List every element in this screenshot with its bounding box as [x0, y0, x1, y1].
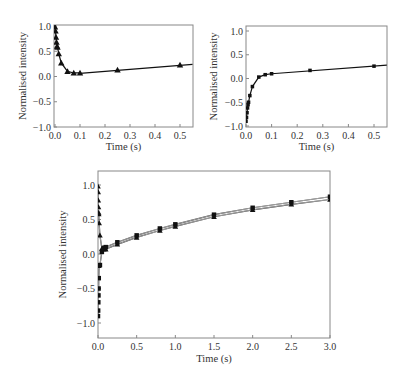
plot-frame: [54, 25, 193, 127]
y-tick-label: 1.0: [231, 26, 244, 37]
x-tick-label: 0.0: [240, 130, 253, 141]
y-tick-label: 0.5: [231, 49, 244, 60]
x-tick-label: 0.2: [291, 130, 304, 141]
plot-area: [52, 24, 193, 76]
y-tick-label: −1.0: [77, 318, 95, 329]
plot-frame: [246, 26, 387, 127]
square-marker: [96, 286, 100, 290]
fit-line: [80, 64, 193, 73]
x-tick-label: 0.0: [49, 130, 62, 141]
triangle-marker: [95, 189, 101, 194]
fit-line: [272, 65, 387, 74]
square-marker: [134, 233, 138, 237]
x-tick-label: 0.5: [174, 130, 187, 141]
chart-top-left: 1.00.50.0−0.5−1.00.00.10.20.30.40.5Time …: [17, 21, 193, 154]
triangle-marker: [58, 60, 64, 66]
x-tick-label: 3.0: [324, 341, 337, 352]
square-marker: [103, 245, 107, 249]
triangle-marker: [96, 204, 102, 209]
x-axis-label: Time (s): [106, 141, 142, 153]
series-line-triangles: [55, 27, 80, 73]
square-marker: [173, 222, 177, 226]
x-axis-label: Time (s): [196, 353, 232, 365]
y-axis-label: Normalised intensity: [57, 210, 68, 299]
y-tick-label: 0.5: [83, 214, 96, 225]
series-line-squares: [246, 74, 272, 122]
square-marker: [289, 200, 293, 204]
square-marker: [250, 206, 254, 210]
square-marker: [257, 75, 261, 79]
x-tick-label: 0.4: [342, 130, 355, 141]
x-tick-label: 0.2: [99, 130, 112, 141]
triangle-marker: [96, 220, 102, 225]
y-tick-label: 0.0: [83, 249, 96, 260]
square-marker: [98, 263, 102, 267]
triangle-marker: [52, 28, 58, 34]
x-tick-label: 0.3: [317, 130, 330, 141]
square-marker: [96, 314, 100, 318]
square-marker: [97, 276, 101, 280]
square-marker: [328, 194, 332, 198]
y-tick-label: 1.0: [39, 21, 52, 32]
triangle-marker: [96, 197, 102, 202]
x-tick-label: 0.5: [368, 130, 381, 141]
square-marker: [270, 72, 274, 76]
y-tick-label: −0.5: [33, 96, 51, 107]
x-tick-label: 0.1: [265, 130, 278, 141]
square-marker: [308, 69, 312, 73]
x-tick-label: 2.0: [246, 341, 259, 352]
y-axis-label: Normalised intensity: [208, 32, 219, 121]
x-tick-label: 2.5: [285, 341, 298, 352]
triangle-marker: [177, 62, 183, 68]
square-marker: [115, 240, 119, 244]
square-marker: [248, 94, 252, 98]
y-tick-label: −0.5: [77, 283, 95, 294]
y-tick-label: 1.0: [83, 180, 96, 191]
square-marker: [263, 73, 267, 77]
x-tick-label: 0.0: [92, 341, 105, 352]
triangle-marker: [114, 67, 120, 73]
square-marker: [100, 250, 104, 254]
x-tick-label: 0.1: [74, 130, 87, 141]
plot-frame: [98, 171, 330, 338]
triangle-marker: [95, 184, 101, 189]
chart-top-right: 1.00.50.0−0.5−1.00.00.10.20.30.40.5Time …: [208, 26, 387, 154]
square-marker: [212, 212, 216, 216]
plot-area: [244, 64, 387, 123]
square-marker: [244, 119, 248, 123]
plot-area: [95, 184, 333, 319]
x-tick-label: 1.0: [169, 341, 182, 352]
square-marker: [96, 308, 100, 312]
x-tick-label: 1.5: [208, 341, 221, 352]
x-tick-label: 0.5: [130, 341, 143, 352]
square-marker: [96, 293, 100, 297]
square-marker: [158, 226, 162, 230]
chart-bottom: 1.00.50.0−0.5−1.00.00.51.01.52.02.53.0Ti…: [57, 171, 336, 365]
x-tick-label: 0.4: [149, 130, 162, 141]
square-marker: [251, 85, 255, 89]
x-tick-label: 0.3: [124, 130, 137, 141]
y-axis-label: Normalised intensity: [17, 31, 28, 120]
square-marker: [372, 64, 376, 68]
square-marker: [246, 106, 250, 110]
square-marker: [247, 100, 251, 104]
square-marker: [96, 300, 100, 304]
x-axis-label: Time (s): [299, 141, 335, 153]
y-tick-label: −0.5: [225, 97, 243, 108]
figure: 1.00.50.0−0.5−1.00.00.10.20.30.40.5Time …: [0, 0, 402, 383]
y-tick-label: 0.0: [231, 73, 244, 84]
y-tick-label: 0.0: [39, 71, 52, 82]
y-tick-label: 0.5: [39, 46, 52, 57]
square-marker: [245, 116, 249, 120]
